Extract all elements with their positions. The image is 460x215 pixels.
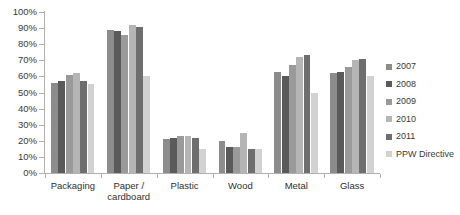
bar (282, 76, 289, 173)
bar (170, 138, 177, 173)
y-axis-tick-label: 50% (1, 88, 37, 98)
x-axis-label-line: Metal (268, 180, 324, 191)
y-axis-tick-label: 20% (1, 136, 37, 146)
legend-item[interactable]: PPW Directive (386, 146, 460, 164)
bar-group (51, 12, 95, 173)
legend-item-label: 2009 (396, 97, 416, 106)
bar (73, 73, 80, 173)
plot-area (45, 12, 380, 173)
y-axis-tick-label: 60% (1, 71, 37, 81)
x-axis-label-line: cardboard (101, 191, 157, 202)
legend-item[interactable]: 2008 (386, 76, 460, 94)
bar (199, 149, 206, 173)
bar (359, 59, 366, 173)
bar-group (163, 12, 207, 173)
y-axis-tick-label: 90% (1, 23, 37, 33)
bar (88, 84, 95, 173)
legend-swatch-icon (386, 134, 392, 140)
bar (129, 25, 136, 173)
bar (367, 76, 374, 173)
bar-group (330, 12, 374, 173)
bar (352, 60, 359, 173)
legend-item-label: PPW Directive (396, 150, 454, 159)
bar (114, 31, 121, 173)
x-axis-tick (157, 174, 158, 178)
x-axis-category-label: Metal (268, 180, 324, 191)
bar (136, 27, 143, 174)
bar-group (107, 12, 151, 173)
bar (58, 81, 65, 173)
bar (311, 93, 318, 174)
legend-item[interactable]: 2007 (386, 58, 460, 76)
x-axis-label-line: Paper / (101, 180, 157, 191)
x-axis-category-label: Glass (324, 180, 380, 191)
legend-item[interactable]: 2009 (386, 93, 460, 111)
bar (163, 139, 170, 173)
y-axis-tick-label: 0% (1, 168, 37, 178)
x-axis-category-label: Packaging (45, 180, 101, 191)
legend-swatch-icon (386, 81, 392, 87)
y-axis-tick-label: 70% (1, 55, 37, 65)
bar (177, 136, 184, 173)
x-axis-tick (213, 174, 214, 178)
bar (274, 72, 281, 173)
x-axis-label-line: Packaging (45, 180, 101, 191)
bar (248, 149, 255, 173)
y-axis-tick-label: 100% (1, 7, 37, 17)
bar (255, 149, 262, 173)
bar (304, 55, 311, 173)
bar (185, 136, 192, 173)
x-axis-tick (268, 174, 269, 178)
bar (345, 67, 352, 173)
legend-item-label: 2007 (396, 62, 416, 71)
bar (289, 65, 296, 173)
legend-item[interactable]: 2011 (386, 128, 460, 146)
legend-swatch-icon (386, 99, 392, 105)
bar (233, 147, 240, 173)
bar (337, 72, 344, 173)
y-axis-labels: 0%10%20%30%40%50%60%70%80%90%100% (0, 0, 37, 215)
x-axis-category-label: Plastic (157, 180, 213, 191)
y-axis-tick-label: 80% (1, 39, 37, 49)
y-axis-tick-label: 40% (1, 104, 37, 114)
x-axis-tick (380, 174, 381, 178)
bar-group (219, 12, 263, 173)
bar (226, 147, 233, 173)
chart-legend: 20072008200920102011PPW Directive (386, 58, 460, 163)
legend-item[interactable]: 2010 (386, 111, 460, 129)
x-axis-label-line: Plastic (157, 180, 213, 191)
bar (107, 30, 114, 173)
legend-item-label: 2010 (396, 115, 416, 124)
legend-swatch-icon (386, 116, 392, 122)
x-axis-tick (45, 174, 46, 178)
y-axis-tick-label: 30% (1, 120, 37, 130)
x-axis-category-label: Wood (213, 180, 269, 191)
bar (121, 35, 128, 173)
x-axis-tick (324, 174, 325, 178)
bar (66, 75, 73, 173)
bar (240, 133, 247, 173)
x-axis-tick (101, 174, 102, 178)
x-axis-label-line: Wood (213, 180, 269, 191)
bar (143, 76, 150, 173)
legend-swatch-icon (386, 151, 392, 157)
bar (330, 73, 337, 173)
bar-group (274, 12, 318, 173)
bar (219, 141, 226, 173)
bar (51, 83, 58, 173)
bar (296, 57, 303, 173)
legend-item-label: 2008 (396, 80, 416, 89)
legend-swatch-icon (386, 64, 392, 70)
bar (192, 138, 199, 173)
x-axis-category-label: Paper /cardboard (101, 180, 157, 202)
bar-chart: 0%10%20%30%40%50%60%70%80%90%100% Packag… (0, 0, 460, 215)
legend-item-label: 2011 (396, 132, 415, 141)
bar (80, 81, 87, 173)
x-axis-label-line: Glass (324, 180, 380, 191)
y-axis-tick-label: 10% (1, 152, 37, 162)
